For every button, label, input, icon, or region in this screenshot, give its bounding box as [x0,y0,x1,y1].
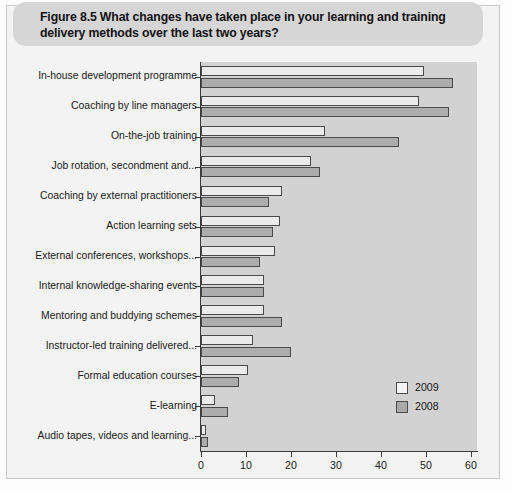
x-axis-tick-label: 40 [361,459,401,471]
legend-entry: 2008 [396,398,462,417]
bar-2008 [201,227,273,237]
bar-2009 [201,305,264,315]
bar-2009 [201,216,280,226]
bar-2008 [201,137,399,147]
category-label: Audio tapes, videos and learning... [7,430,197,441]
legend-swatch-2009 [396,382,408,394]
chart-legend: 20092008 [396,379,462,417]
category-label: E-learning [7,400,197,411]
legend-label: 2009 [415,381,439,393]
legend-entry: 2009 [396,379,462,398]
x-axis-tick [426,451,427,457]
bar-2009 [201,186,282,196]
x-axis-tick-label: 0 [181,459,221,471]
bar-2009 [201,365,248,375]
bar-2008 [201,197,269,207]
bar-2009 [201,425,206,435]
category-label: Formal education courses [7,370,197,381]
x-axis-tick-label: 60 [451,459,491,471]
x-axis-tick-label: 50 [406,459,446,471]
category-label: Coaching by line managers [7,100,197,111]
x-axis-line [200,451,478,452]
bar-2008 [201,78,453,88]
chart-area: In-house development programmeCoaching b… [0,0,512,491]
bar-2008 [201,377,239,387]
category-label: Mentoring and buddying schemes [7,310,197,321]
bar-2008 [201,287,264,297]
bar-2008 [201,257,260,267]
category-label: Instructor-led training delivered... [7,340,197,351]
legend-swatch-2008 [396,401,408,413]
x-axis-tick [291,451,292,457]
figure-root: Figure 8.5 What changes have taken place… [0,0,512,491]
bar-2009 [201,395,215,405]
category-label: Coaching by external practitioners [7,190,197,201]
category-label: In-house development programme [7,70,197,81]
x-axis-tick-label: 20 [271,459,311,471]
category-label: Job rotation, secondment and... [7,160,197,171]
category-label: Internal knowledge-sharing events [7,280,197,291]
bar-2009 [201,156,311,166]
bar-2009 [201,66,424,76]
x-axis-tick [381,451,382,457]
bar-2008 [201,437,208,447]
bar-2008 [201,407,228,417]
x-axis-tick [336,451,337,457]
category-label: On-the-job training [7,130,197,141]
bar-2008 [201,107,449,117]
x-axis-tick-label: 10 [226,459,266,471]
x-axis-tick [246,451,247,457]
bar-2008 [201,347,291,357]
category-label: External conferences, workshops... [7,250,197,261]
x-axis-tick [471,451,472,457]
bar-2009 [201,246,275,256]
x-axis-tick [201,451,202,457]
bar-2008 [201,317,282,327]
bar-2009 [201,126,325,136]
bar-2009 [201,275,264,285]
bar-2009 [201,96,419,106]
bar-2008 [201,167,320,177]
bar-2009 [201,335,253,345]
legend-label: 2008 [415,400,439,412]
x-axis-tick-label: 30 [316,459,356,471]
category-label: Action learning sets [7,220,197,231]
